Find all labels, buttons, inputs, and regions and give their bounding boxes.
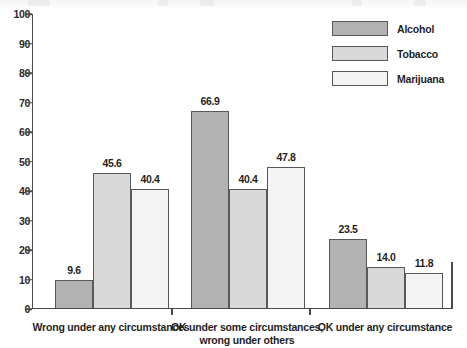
bar-chart: 1009080706050403020100 9.645.640.466.940… — [0, 9, 467, 348]
x-axis-group-tick — [171, 308, 173, 315]
bar-value-label: 40.4 — [140, 173, 159, 185]
bar-tobacco-group-1[interactable] — [93, 173, 131, 308]
bar-alcohol-group-3[interactable] — [329, 239, 367, 308]
bar-marijuana-group-3[interactable] — [405, 273, 443, 308]
x-axis-group-tick — [309, 308, 311, 315]
x-axis-category-label-line: OK under any circumstance — [318, 321, 452, 334]
legend-item-marijuana[interactable]: Marijuana — [332, 69, 444, 88]
bar-value-label: 9.6 — [67, 264, 81, 276]
alcohol-swatch — [332, 21, 388, 36]
x-axis-category-label: OK under some circumstances,wrong under … — [171, 321, 323, 346]
x-axis-category-label: Wrong under any circumstances — [33, 321, 190, 334]
legend-item-label: Alcohol — [397, 23, 434, 35]
bar-tobacco-group-2[interactable] — [229, 189, 267, 308]
bar-value-label: 11.8 — [415, 257, 434, 269]
plot-right-edge — [451, 262, 453, 309]
legend-item-tobacco[interactable]: Tobacco — [332, 44, 444, 63]
legend-item-label: Marijuana — [397, 73, 444, 85]
bar-alcohol-group-2[interactable] — [191, 111, 229, 308]
x-axis-category-label-line: wrong under others — [171, 334, 323, 347]
bar-marijuana-group-1[interactable] — [131, 189, 169, 308]
tobacco-swatch — [332, 46, 388, 61]
x-axis-category-label-line: Wrong under any circumstances — [33, 321, 190, 334]
bar-value-label: 40.4 — [238, 173, 257, 185]
bar-value-label: 45.6 — [102, 157, 121, 169]
legend: AlcoholTobaccoMarijuana — [332, 19, 444, 94]
bar-value-label: 14.0 — [376, 251, 395, 263]
bar-value-label: 23.5 — [338, 223, 357, 235]
marijuana-swatch — [332, 71, 388, 86]
scan-artifact-band — [0, 0, 467, 9]
x-axis-category-label-line: OK under some circumstances, — [171, 321, 323, 334]
bar-alcohol-group-1[interactable] — [55, 280, 93, 308]
legend-item-label: Tobacco — [397, 48, 438, 60]
bar-value-label: 66.9 — [200, 95, 219, 107]
bar-value-label: 47.8 — [276, 151, 295, 163]
bar-tobacco-group-3[interactable] — [367, 267, 405, 308]
x-axis-category-label: OK under any circumstance — [318, 321, 452, 334]
bar-marijuana-group-2[interactable] — [267, 167, 305, 308]
legend-item-alcohol[interactable]: Alcohol — [332, 19, 444, 38]
